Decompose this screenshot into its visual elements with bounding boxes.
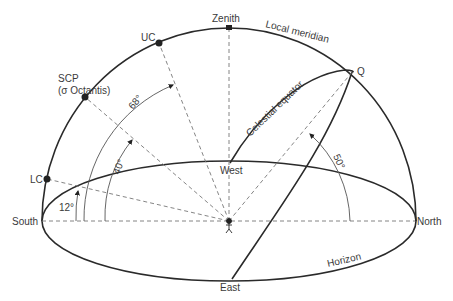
angle-label-12: 12° — [59, 202, 74, 213]
zenith-label: Zenith — [212, 13, 240, 24]
angle-label-40: 40° — [111, 158, 127, 176]
celestial-equator-curve — [232, 72, 352, 279]
lc-label: LC — [30, 174, 43, 185]
scp-label: SCP — [58, 73, 79, 84]
observer-icon — [226, 219, 232, 234]
celestial-equator-label: Celestial equator — [244, 78, 306, 139]
lc-point — [44, 176, 51, 183]
celestial-sphere-diagram: Zenith UC SCP (σ Octantis) LC Q South No… — [0, 0, 453, 301]
observer-scp-line — [85, 97, 229, 221]
angle-arc-40 — [105, 140, 132, 221]
zenith-marker — [226, 25, 232, 30]
observer-uc-line — [159, 43, 229, 221]
angle-arc-50 — [310, 134, 350, 221]
angle-label-68: 68° — [126, 93, 144, 112]
observer-lc-line — [47, 179, 229, 221]
uc-label: UC — [141, 32, 155, 43]
horizon-label: Horizon — [326, 250, 362, 268]
east-label: East — [220, 282, 240, 293]
angle-label-50: 50° — [331, 152, 347, 170]
west-label: West — [220, 165, 243, 176]
south-label: South — [12, 216, 38, 227]
uc-point — [156, 40, 163, 47]
north-label: North — [417, 216, 441, 227]
angle-arc-12 — [76, 191, 78, 221]
q-label: Q — [357, 66, 365, 77]
scp-star-label: (σ Octantis) — [58, 85, 110, 96]
